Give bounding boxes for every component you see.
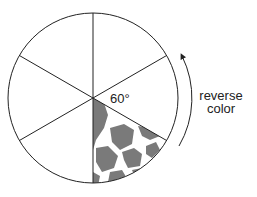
wheel-diagram: 60° reverse color	[0, 0, 257, 197]
angle-label: 60°	[110, 91, 130, 106]
rotation-arrow-icon	[179, 56, 192, 146]
shaded-sector	[93, 98, 173, 188]
side-label-line2: color	[207, 101, 236, 116]
